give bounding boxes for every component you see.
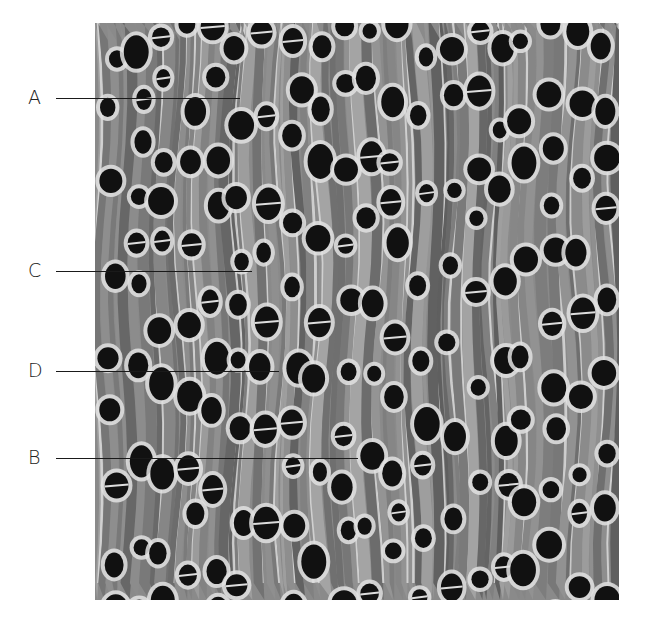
leader-line-c (56, 271, 252, 272)
leader-line-a (56, 98, 240, 99)
label-d: D (28, 361, 43, 380)
label-b: B (28, 448, 40, 467)
leader-line-d (56, 371, 279, 372)
labeled-micrograph-figure: A C D B (0, 0, 649, 619)
label-a: A (28, 88, 41, 107)
micrograph-image (95, 23, 619, 600)
wood-cross-section-micrograph (95, 23, 619, 600)
label-c: C (28, 261, 41, 280)
leader-line-b (56, 458, 358, 459)
